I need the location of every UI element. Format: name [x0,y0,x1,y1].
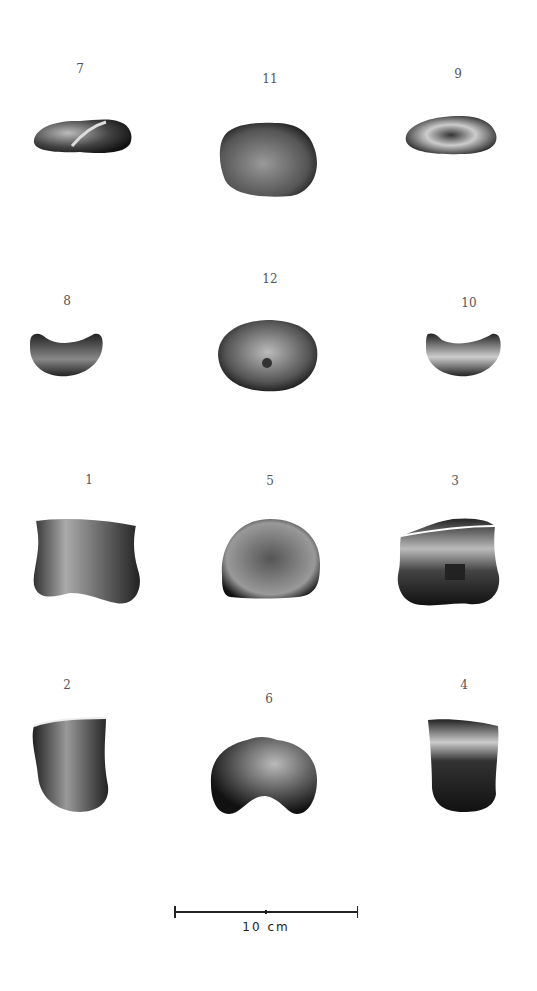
figure-label-7: 7 [76,62,84,76]
bone-figure-3 [393,514,505,610]
scale-bar [174,906,358,918]
figure-label-10: 10 [461,296,476,310]
bone-figure-10 [424,330,504,380]
bone-figure-5 [218,515,324,600]
bone-figure-8 [28,330,106,380]
figure-label-1: 1 [85,473,93,487]
scale-bar-mid-tick [265,910,267,914]
figure-label-12: 12 [262,272,277,286]
bone-figure-7 [30,108,135,158]
scale-bar-right-tick [357,906,359,918]
bone-figure-4 [424,716,506,816]
figure-label-8: 8 [63,294,71,308]
bone-figure-1 [30,515,150,610]
bone-figure-11 [215,118,321,198]
bone-figure-2 [30,716,112,816]
bone-figure-6 [205,734,323,818]
figure-label-5: 5 [266,474,274,488]
figure-label-11: 11 [262,72,277,86]
figure-label-6: 6 [265,692,273,706]
figure-label-2: 2 [63,678,71,692]
bone-figure-12 [212,315,322,395]
bone-figure-9 [400,108,500,158]
figure-label-4: 4 [460,678,468,692]
scale-bar-left-tick [174,906,176,918]
figure-label-9: 9 [454,67,462,81]
scale-bar-label: 10 cm [242,920,289,934]
figure-label-3: 3 [451,474,459,488]
